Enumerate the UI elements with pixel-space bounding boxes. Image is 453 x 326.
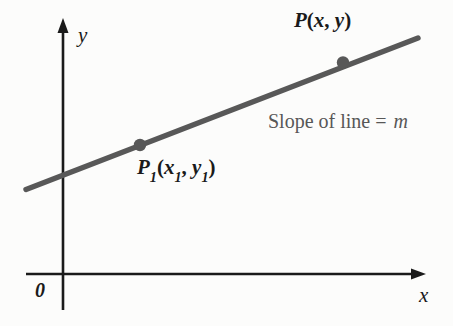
origin-label: 0 xyxy=(35,280,45,300)
point-label-p1: P1(x1, y1) xyxy=(137,157,216,181)
point-label-p1-arg-y-subscript: 1 xyxy=(201,169,208,185)
slope-annotation-variable: m xyxy=(392,110,408,132)
y-axis-arrowhead-icon xyxy=(58,18,69,33)
point-label-p-close-paren: ) xyxy=(344,8,351,32)
point-marker-p xyxy=(337,56,349,68)
diagram-canvas xyxy=(0,0,453,326)
point-marker-p1 xyxy=(134,139,146,151)
point-label-p1-comma: , xyxy=(182,155,193,179)
point-label-p-comma: , xyxy=(324,8,335,32)
point-label-p1-arg-x: x xyxy=(164,155,175,179)
x-axis-arrowhead-icon xyxy=(411,269,426,280)
point-label-p1-arg-x-subscript: 1 xyxy=(174,169,181,185)
point-label-p-name: P xyxy=(294,8,307,32)
point-label-p1-name-subscript: 1 xyxy=(150,169,157,185)
x-axis-label: x xyxy=(419,285,428,306)
point-label-p-arg-y: y xyxy=(335,8,344,32)
slope-annotation-text: Slope of line = xyxy=(268,110,392,132)
point-label-p-open-paren: ( xyxy=(307,8,314,32)
y-axis-label: y xyxy=(78,25,87,46)
point-label-p1-name: P xyxy=(137,155,150,179)
point-label-p1-open-paren: ( xyxy=(157,155,164,179)
point-label-p: P(x, y) xyxy=(294,10,351,31)
slope-annotation: Slope of line = m xyxy=(268,111,408,131)
slope-of-line-diagram: y x 0 P(x, y) P1(x1, y1) Slope of line =… xyxy=(0,0,453,326)
point-label-p-arg-x: x xyxy=(314,8,325,32)
point-label-p1-close-paren: ) xyxy=(209,155,216,179)
